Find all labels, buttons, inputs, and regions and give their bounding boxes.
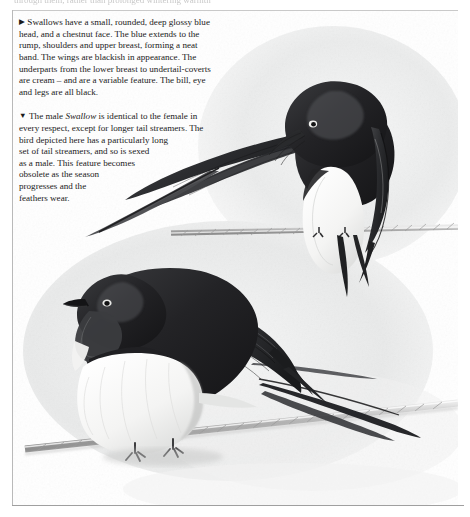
paragraph-1-line-4: band. The wings are blackish in appearan… xyxy=(19,52,245,64)
text-column: ▶Swallows have a small, rounded, deep gl… xyxy=(19,16,245,204)
paragraph-2-line-6: obsolete as the season xyxy=(19,169,129,181)
triangle-right-marker: ▶ xyxy=(19,17,25,26)
paragraph-2: ▼The male Swallow is identical to the fe… xyxy=(19,110,245,204)
paragraph-2-line-3: bird depicted here has a particularly lo… xyxy=(19,135,169,147)
page-rule-bottom xyxy=(12,505,464,506)
paragraph-1-line-2: head, and a chestnut face. The blue exte… xyxy=(19,29,245,41)
paragraph-2-line-7: progresses and the xyxy=(19,181,115,193)
paragraph-2-line-2: every respect, except for longer tail st… xyxy=(19,123,241,135)
paragraph-2-line-8: feathers wear. xyxy=(19,193,99,205)
book-page: through them, rather than prolonged wint… xyxy=(0,0,470,517)
paragraph-1-line-7: and legs are all black. xyxy=(19,87,245,99)
paragraph-1: ▶Swallows have a small, rounded, deep gl… xyxy=(19,16,245,99)
paragraph-1-line-1: Swallows have a small, rounded, deep glo… xyxy=(27,17,210,27)
paragraph-1-line-5: underparts from the lower breast to unde… xyxy=(19,64,245,76)
triangle-down-marker: ▼ xyxy=(19,111,27,120)
paragraph-2-line-1: The male Swallow is identical to the fem… xyxy=(29,111,197,121)
paragraph-2-line-5: as a male. This feature becomes xyxy=(19,158,147,170)
paragraph-2-line-4: set of tail streamers, and so is sexed xyxy=(19,146,159,158)
paragraph-1-line-3: rump, shoulders and upper breast, formin… xyxy=(19,40,245,52)
paragraph-1-line-6: are cream – and are a variable feature. … xyxy=(19,75,245,87)
cut-off-running-text: through them, rather than prolonged wint… xyxy=(14,0,454,5)
